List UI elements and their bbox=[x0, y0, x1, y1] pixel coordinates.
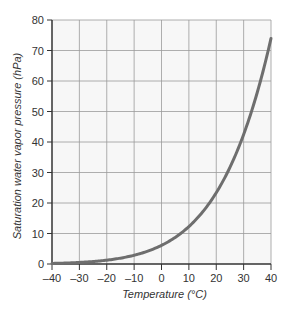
y-tick-label: 50 bbox=[32, 106, 44, 118]
x-tick-label: 30 bbox=[238, 272, 250, 284]
y-axis-title: Saturation water vapor pressure (hPa) bbox=[11, 52, 23, 239]
x-axis-ticks: –40–30–20–10010203040 bbox=[43, 264, 277, 284]
x-tick-label: –40 bbox=[43, 272, 61, 284]
x-tick-label: 40 bbox=[265, 272, 277, 284]
y-tick-label: 80 bbox=[32, 14, 44, 26]
x-tick-label: –10 bbox=[125, 272, 143, 284]
y-tick-label: 60 bbox=[32, 75, 44, 87]
y-tick-label: 70 bbox=[32, 45, 44, 57]
y-tick-label: 10 bbox=[32, 228, 44, 240]
y-axis-ticks: 01020304050607080 bbox=[32, 14, 52, 270]
x-tick-label: –20 bbox=[98, 272, 116, 284]
y-tick-label: 20 bbox=[32, 197, 44, 209]
y-tick-label: 40 bbox=[32, 136, 44, 148]
x-tick-label: 20 bbox=[210, 272, 222, 284]
x-axis-title: Temperature (°C) bbox=[122, 288, 207, 300]
chart: –40–30–20–10010203040 01020304050607080 … bbox=[0, 0, 290, 315]
x-tick-label: 0 bbox=[158, 272, 164, 284]
y-tick-label: 0 bbox=[38, 258, 44, 270]
x-tick-label: 10 bbox=[183, 272, 195, 284]
x-tick-label: –30 bbox=[70, 272, 88, 284]
y-tick-label: 30 bbox=[32, 167, 44, 179]
